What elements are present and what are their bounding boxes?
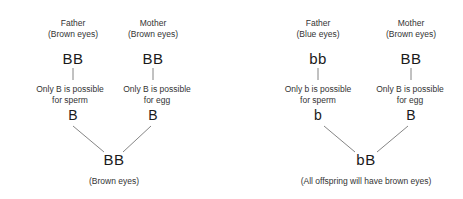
mother-gamete-line <box>123 126 151 152</box>
mother-gamete-note-2: for egg <box>397 95 423 105</box>
mother-phenotype: (Brown eyes) <box>128 29 178 39</box>
mother-phenotype: (Brown eyes) <box>386 29 436 39</box>
father-gamete-line <box>324 126 355 152</box>
mother-genotype: BB <box>142 51 163 67</box>
father-phenotype: (Blue eyes) <box>297 29 340 39</box>
mother-gamete: B <box>406 108 415 123</box>
father-gamete-note: Only b is possible <box>285 84 352 94</box>
father-label: Father <box>306 18 331 28</box>
mother-gamete-note-2: for egg <box>144 95 170 105</box>
father-gamete: b <box>314 108 322 123</box>
father-phenotype: (Brown eyes) <box>48 29 98 39</box>
father-gamete-note: Only B is possible <box>36 84 104 94</box>
mother-gamete-note: Only B is possible <box>123 84 191 94</box>
father-genotype: BB <box>62 51 83 67</box>
father-gamete-note-2: for sperm <box>300 95 336 105</box>
mother-label: Mother <box>398 18 424 28</box>
father-gamete: B <box>68 108 77 123</box>
mother-gamete-note: Only B is possible <box>376 84 444 94</box>
father-label: Father <box>61 18 86 28</box>
mother-genotype: BB <box>400 51 421 67</box>
mother-gamete: B <box>148 108 157 123</box>
father-gamete-line <box>73 126 104 152</box>
mother-label: Mother <box>140 18 166 28</box>
offspring-phenotype: (All offspring will have brown eyes) <box>301 176 432 186</box>
father-gamete-note-2: for sperm <box>52 95 88 105</box>
offspring-genotype: bB <box>356 152 375 168</box>
offspring-phenotype: (Brown eyes) <box>89 176 139 186</box>
offspring-genotype: BB <box>103 152 124 168</box>
father-genotype: bb <box>309 51 327 67</box>
mother-gamete-line <box>377 126 408 152</box>
